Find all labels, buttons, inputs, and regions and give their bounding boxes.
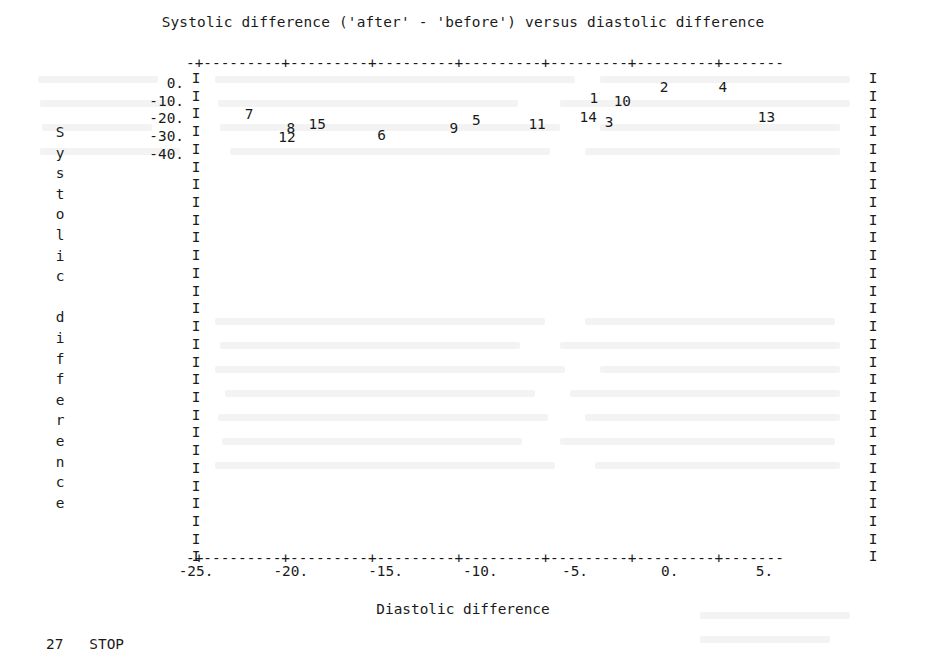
y-axis-title-char: t <box>52 184 68 205</box>
y-axis-title-char: o <box>52 204 68 225</box>
axis-tick-glyph: I <box>189 265 203 283</box>
axis-tick-glyph: I <box>189 531 203 549</box>
axis-tick-glyph: I <box>189 424 203 442</box>
data-point-label: 2 <box>660 80 669 94</box>
axis-tick-glyph: I <box>189 460 203 478</box>
y-axis-title-char: r <box>52 410 68 431</box>
data-point-label: 4 <box>718 80 727 94</box>
footer-spacer <box>63 636 89 652</box>
axis-tick-glyph: I <box>866 442 880 460</box>
footer-command: STOP <box>89 636 124 652</box>
axis-tick-glyph: I <box>866 407 880 425</box>
axis-tick-glyph: I <box>866 194 880 212</box>
axis-tick-glyph: I <box>189 123 203 141</box>
axis-tick-glyph: I <box>866 176 880 194</box>
axis-tick-glyph: I <box>189 247 203 265</box>
data-point-label: 3 <box>605 115 614 129</box>
axis-tick-glyph: I <box>189 371 203 389</box>
axis-tick-glyph: I <box>189 495 203 513</box>
axis-tick-glyph: I <box>866 105 880 123</box>
axis-tick-glyph: I <box>189 442 203 460</box>
x-tick-label: -10. <box>450 563 510 579</box>
axis-tick-glyph: I <box>866 123 880 141</box>
terminal-footer: 27 STOP <box>46 636 124 652</box>
data-point-label: 11 <box>528 117 545 131</box>
axis-tick-glyph: I <box>866 283 880 301</box>
axis-tick-glyph: I <box>866 318 880 336</box>
axis-tick-glyph: I <box>866 389 880 407</box>
axis-tick-glyph: I <box>866 460 880 478</box>
data-point-label: 12 <box>278 130 295 144</box>
y-axis-title-char: S <box>52 122 68 143</box>
axis-tick-glyph: I <box>866 159 880 177</box>
axis-tick-glyph: I <box>189 159 203 177</box>
y-tick-label: 0. <box>114 76 184 90</box>
axis-tick-glyph: I <box>189 300 203 318</box>
x-tick-label: -5. <box>545 563 605 579</box>
y-axis-title-char: n <box>52 452 68 473</box>
scatter-plot: -+---------+---------+---------+--------… <box>0 0 926 668</box>
axis-tick-glyph: I <box>189 105 203 123</box>
axis-tick-glyph: I <box>189 354 203 372</box>
data-point-label: 15 <box>309 117 326 131</box>
axis-tick-glyph: I <box>866 247 880 265</box>
axis-tick-glyph: I <box>866 265 880 283</box>
data-point-label: 1 <box>590 91 599 105</box>
y-axis-title-char: e <box>52 431 68 452</box>
y-tick-label: -40. <box>114 147 184 161</box>
y-axis-title-char: i <box>52 246 68 267</box>
axis-tick-glyph: I <box>866 495 880 513</box>
y-axis-title-char: s <box>52 163 68 184</box>
x-axis-title: Diastolic difference <box>0 601 926 617</box>
data-point-label: 7 <box>245 107 254 121</box>
axis-tick-glyph: I <box>866 336 880 354</box>
y-tick-label: -30. <box>114 129 184 143</box>
y-axis-title-char: l <box>52 225 68 246</box>
axis-tick-glyph: I <box>189 478 203 496</box>
y-tick-label: -20. <box>114 111 184 125</box>
y-axis-title-char: y <box>52 143 68 164</box>
data-point-label: 14 <box>580 110 597 124</box>
x-tick-label: -20. <box>261 563 321 579</box>
axis-tick-glyph: I <box>189 513 203 531</box>
axis-tick-glyph: I <box>189 283 203 301</box>
left-axis-column: IIIIIIIIIIIIIIIIIIIIIIIIIIII <box>189 70 203 566</box>
data-point-label: 9 <box>449 121 458 135</box>
axis-tick-glyph: I <box>866 300 880 318</box>
x-tick-label: -25. <box>166 563 226 579</box>
y-tick-label: -10. <box>114 94 184 108</box>
y-axis-title-char: d <box>52 307 68 328</box>
y-axis-title-char: f <box>52 349 68 370</box>
right-axis-column: IIIIIIIIIIIIIIIIIIIIIIIIIIII <box>866 70 880 566</box>
axis-tick-glyph: I <box>189 141 203 159</box>
x-tick-label: 0. <box>640 563 700 579</box>
axis-tick-glyph: I <box>189 336 203 354</box>
y-axis-title-char: e <box>52 390 68 411</box>
y-axis-title-char: e <box>52 493 68 514</box>
x-axis-tick-labels: -25.-20.-15.-10.-5.0.5. <box>0 563 926 583</box>
x-tick-label: 5. <box>735 563 795 579</box>
y-axis-title-char: i <box>52 328 68 349</box>
y-axis-title-char: f <box>52 369 68 390</box>
top-axis-rule: -+---------+---------+---------+--------… <box>186 56 784 70</box>
axis-tick-glyph: I <box>189 212 203 230</box>
axis-tick-glyph: I <box>866 88 880 106</box>
axis-tick-glyph: I <box>189 389 203 407</box>
page-title: Systolic difference ('after' - 'before')… <box>0 14 926 30</box>
axis-tick-glyph: I <box>866 531 880 549</box>
axis-tick-glyph: I <box>866 141 880 159</box>
data-point-label: 13 <box>758 110 775 124</box>
footer-line-number: 27 <box>46 636 63 652</box>
axis-tick-glyph: I <box>866 371 880 389</box>
axis-tick-glyph: I <box>866 70 880 88</box>
axis-tick-glyph: I <box>189 229 203 247</box>
axis-tick-glyph: I <box>866 513 880 531</box>
axis-tick-glyph: I <box>866 478 880 496</box>
data-point-label: 5 <box>472 113 481 127</box>
y-axis-title: Systolic difference <box>52 122 68 513</box>
y-axis-title-char: c <box>52 266 68 287</box>
axis-tick-glyph: I <box>189 318 203 336</box>
y-axis-title-char: c <box>52 472 68 493</box>
x-tick-label: -15. <box>356 563 416 579</box>
data-point-label: 10 <box>614 94 631 108</box>
